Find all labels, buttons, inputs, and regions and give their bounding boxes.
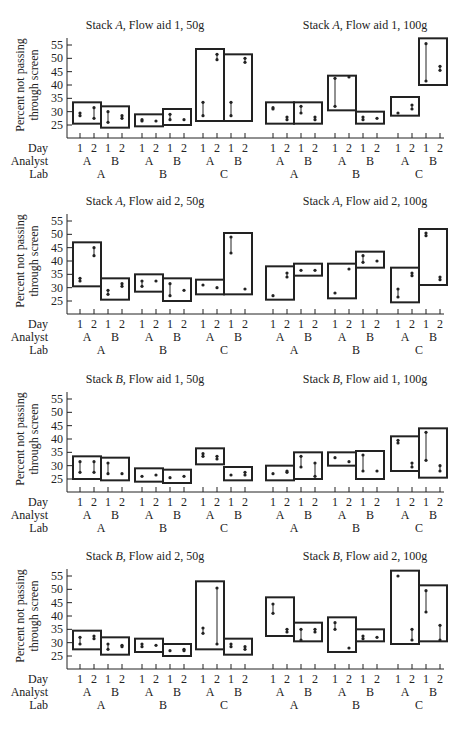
analyst-label: A xyxy=(206,685,215,699)
data-point xyxy=(424,431,427,434)
data-point xyxy=(396,111,399,114)
range-box xyxy=(419,229,447,285)
data-point xyxy=(92,246,95,249)
day-label: 2 xyxy=(312,317,318,331)
range-box xyxy=(196,448,224,464)
day-label: 1 xyxy=(105,317,111,331)
data-point xyxy=(78,460,81,463)
y-tick-label: 35 xyxy=(51,91,63,105)
data-point xyxy=(410,465,413,468)
data-point xyxy=(361,115,364,118)
data-point xyxy=(438,638,441,641)
lab-label: C xyxy=(220,698,228,712)
analyst-label: B xyxy=(366,154,374,168)
chart-panel: Stack A, Flow aid 2, 50g12AA12B12AB12B12… xyxy=(73,194,252,357)
day-label: 1 xyxy=(77,672,83,686)
data-point xyxy=(299,465,302,468)
day-label: 2 xyxy=(181,495,187,509)
lab-label: A xyxy=(97,698,106,712)
analyst-label: B xyxy=(304,685,312,699)
analyst-row-label: Analyst xyxy=(11,154,49,168)
y-axis-label: through screen xyxy=(27,226,41,297)
range-box xyxy=(328,76,356,111)
analyst-label: B xyxy=(173,330,181,344)
analyst-label: A xyxy=(276,508,285,522)
day-label: 1 xyxy=(167,672,173,686)
y-tick-label: 25 xyxy=(51,294,63,308)
y-tick-label: 25 xyxy=(51,118,63,132)
y-tick-label: 55 xyxy=(51,569,63,583)
range-box xyxy=(196,581,224,649)
data-point xyxy=(285,469,288,472)
data-point xyxy=(285,115,288,118)
day-row-label: Day xyxy=(28,141,48,155)
day-label: 2 xyxy=(214,317,220,331)
day-label: 2 xyxy=(437,317,443,331)
day-label: 1 xyxy=(270,141,276,155)
day-label: 1 xyxy=(139,672,145,686)
data-point xyxy=(410,107,413,110)
data-point xyxy=(361,634,364,637)
range-box xyxy=(73,631,101,650)
data-point xyxy=(299,455,302,458)
y-tick-label: 35 xyxy=(51,622,63,636)
data-point xyxy=(375,117,378,120)
data-point xyxy=(215,586,218,589)
lab-row-label: Lab xyxy=(29,167,48,181)
data-point xyxy=(182,289,185,292)
day-label: 2 xyxy=(346,672,352,686)
analyst-label: B xyxy=(304,330,312,344)
range-box xyxy=(328,617,356,652)
range-box xyxy=(224,639,252,655)
day-label: 2 xyxy=(409,672,415,686)
lab-label: A xyxy=(290,698,299,712)
range-box xyxy=(101,637,129,654)
day-label: 1 xyxy=(77,495,83,509)
analyst-label: A xyxy=(276,685,285,699)
lab-label: B xyxy=(352,521,360,535)
data-point xyxy=(410,638,413,641)
range-box xyxy=(135,468,163,481)
range-box xyxy=(73,456,101,479)
lab-label: C xyxy=(415,343,423,357)
day-label: 2 xyxy=(153,672,159,686)
data-point xyxy=(201,452,204,455)
range-box xyxy=(419,585,447,641)
data-point xyxy=(347,267,350,270)
data-point xyxy=(229,473,232,476)
range-box xyxy=(391,268,419,303)
day-label: 1 xyxy=(332,672,338,686)
analyst-label: A xyxy=(276,154,285,168)
lab-label: C xyxy=(415,698,423,712)
range-box xyxy=(356,112,384,124)
data-point xyxy=(271,472,274,475)
day-label: 1 xyxy=(298,672,304,686)
day-label: 1 xyxy=(332,317,338,331)
day-label: 1 xyxy=(139,141,145,155)
chart-title: Stack B, Flow aid 1, 100g xyxy=(303,372,427,386)
day-label: 2 xyxy=(409,317,415,331)
day-label: 2 xyxy=(374,317,380,331)
data-point xyxy=(313,269,316,272)
data-point xyxy=(168,649,171,652)
range-box xyxy=(196,49,224,121)
chart-panel: Stack B, Flow aid 1, 100g12AA12B12AB12B1… xyxy=(266,372,447,535)
day-label: 1 xyxy=(332,495,338,509)
data-point xyxy=(375,469,378,472)
day-label: 2 xyxy=(153,495,159,509)
data-point xyxy=(78,277,81,280)
y-tick-label: 55 xyxy=(51,392,63,406)
day-label: 2 xyxy=(284,141,290,155)
analyst-row-label: Analyst xyxy=(11,685,49,699)
day-label: 1 xyxy=(228,672,234,686)
data-point xyxy=(182,475,185,478)
data-point xyxy=(106,110,109,113)
day-label: 1 xyxy=(105,495,111,509)
day-label: 2 xyxy=(91,672,97,686)
day-label: 1 xyxy=(167,141,173,155)
data-point xyxy=(182,648,185,651)
data-point xyxy=(271,612,274,615)
lab-label: C xyxy=(415,521,423,535)
y-tick-label: 45 xyxy=(51,241,63,255)
range-box xyxy=(163,470,191,483)
